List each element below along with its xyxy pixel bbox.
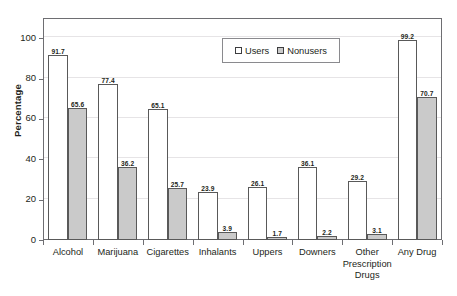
x-tick-mark xyxy=(143,240,144,245)
y-tick-label: 60 xyxy=(25,112,36,123)
bar-value-label: 3.9 xyxy=(223,225,232,232)
bar-value-label: 29.2 xyxy=(351,174,364,181)
y-tick-label: 100 xyxy=(20,32,36,43)
bar-nonusers: 3.9 xyxy=(218,232,238,240)
legend-swatch-nonusers-icon xyxy=(277,47,284,54)
legend-label-nonusers: Nonusers xyxy=(287,46,327,56)
bar-value-label: 2.2 xyxy=(322,229,331,236)
x-tick-label-line: Drugs xyxy=(336,270,398,282)
bar-users: 77.4 xyxy=(98,84,118,240)
bar-users: 29.2 xyxy=(348,181,368,240)
x-tick-mark xyxy=(43,240,44,245)
bar-value-label: 3.1 xyxy=(372,227,381,234)
bar-nonusers: 1.7 xyxy=(267,237,287,240)
bar-nonusers: 36.2 xyxy=(118,167,138,240)
x-tick-mark xyxy=(93,240,94,245)
legend-label-users: Users xyxy=(245,46,269,56)
bar-users: 23.9 xyxy=(198,192,218,240)
bar-nonusers: 65.6 xyxy=(68,108,88,240)
x-tick-label-line: Any Drug xyxy=(386,247,448,259)
legend-item-users: Users xyxy=(235,46,269,56)
y-tick-label: 0 xyxy=(31,234,36,245)
bar-value-label: 65.1 xyxy=(151,102,164,109)
bar-nonusers: 25.7 xyxy=(168,188,188,240)
bar-users: 65.1 xyxy=(148,109,168,240)
legend-swatch-users-icon xyxy=(235,47,242,54)
bar-users: 91.7 xyxy=(48,55,68,240)
bar-group: 65.125.7 xyxy=(148,18,187,240)
bar-value-label: 65.6 xyxy=(71,101,84,108)
bar-chart: Percentage 020406080100 91.765.677.436.2… xyxy=(0,0,457,296)
bar-nonusers: 3.1 xyxy=(367,234,387,240)
bar-users: 99.2 xyxy=(398,40,418,240)
bar-value-label: 1.7 xyxy=(272,230,281,237)
y-tick-label: 80 xyxy=(25,72,36,83)
y-tick-label: 40 xyxy=(25,153,36,164)
bar-value-label: 91.7 xyxy=(52,48,65,55)
bar-group: 91.765.6 xyxy=(48,18,87,240)
bar-group: 99.270.7 xyxy=(398,18,437,240)
legend: Users Nonusers xyxy=(222,38,340,63)
x-tick-mark xyxy=(243,240,244,245)
bar-value-label: 25.7 xyxy=(171,181,184,188)
bar-value-label: 36.1 xyxy=(301,160,314,167)
bar-nonusers: 2.2 xyxy=(317,236,337,240)
bar-group: 29.23.1 xyxy=(348,18,387,240)
bar-users: 36.1 xyxy=(298,167,318,240)
x-tick-mark xyxy=(342,240,343,245)
y-axis-title: Percentage xyxy=(12,61,23,161)
bar-value-label: 36.2 xyxy=(121,160,134,167)
bar-value-label: 70.7 xyxy=(420,90,433,97)
x-tick-mark xyxy=(392,240,393,245)
bar-nonusers: 70.7 xyxy=(417,97,437,240)
bar-users: 26.1 xyxy=(248,187,268,240)
x-tick-label-line: Prescription xyxy=(336,259,398,271)
x-tick-label: Any Drug xyxy=(386,247,448,259)
x-tick-mark xyxy=(292,240,293,245)
bar-group: 77.436.2 xyxy=(98,18,137,240)
y-tick-label: 20 xyxy=(25,193,36,204)
x-tick-mark xyxy=(193,240,194,245)
bar-value-label: 26.1 xyxy=(251,180,264,187)
legend-item-nonusers: Nonusers xyxy=(277,46,327,56)
bar-value-label: 23.9 xyxy=(201,185,214,192)
x-tick-mark xyxy=(442,240,443,245)
bar-value-label: 77.4 xyxy=(101,77,114,84)
bar-value-label: 99.2 xyxy=(401,33,414,40)
